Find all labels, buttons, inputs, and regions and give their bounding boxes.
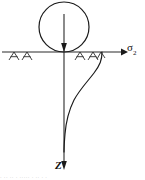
z-axis-arrowhead	[61, 161, 67, 170]
soil-hatching-left	[9, 52, 32, 60]
sigma-subscript: 2	[133, 49, 137, 57]
soil-hatching-right	[75, 52, 105, 60]
caption-partial-text: · ·· ·· · ····· · ·· · ·	[0, 174, 145, 180]
figure-canvas	[0, 0, 145, 180]
stress-distribution-curve	[64, 52, 102, 152]
sigma-axis-label: σ2	[127, 42, 136, 56]
stress-distribution-figure: σ2 Z · ·· ·· · ····· · ·· · ·	[0, 0, 145, 180]
z-axis-label: Z	[55, 160, 62, 171]
load-arrowhead	[61, 43, 67, 52]
